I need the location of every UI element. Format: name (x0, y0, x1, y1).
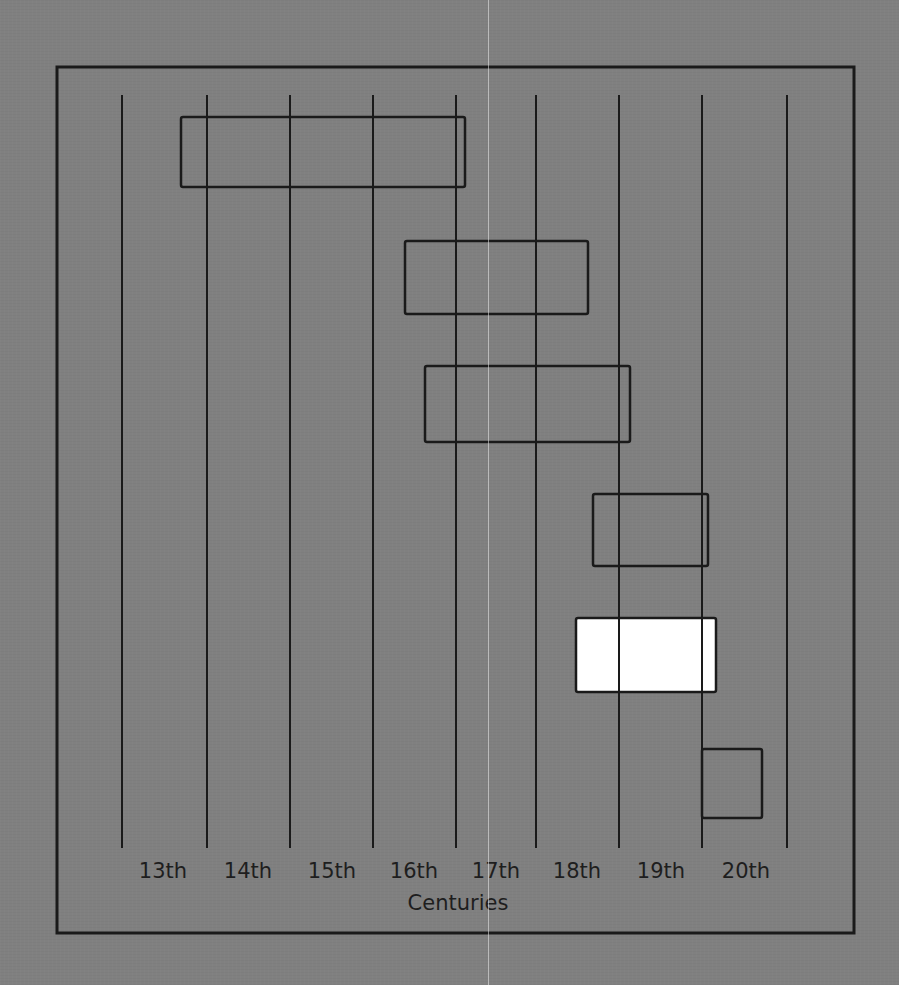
x-axis-title: Centuries (408, 891, 509, 915)
period-bars (181, 117, 762, 818)
tick-label-18th: 18th (553, 859, 601, 883)
x-axis-tick-labels: 13th 14th 15th 16th 17th 18th 19th 20th (139, 859, 770, 883)
period-bar-6 (702, 749, 762, 818)
tick-label-17th: 17th (472, 859, 520, 883)
gridlines (122, 95, 787, 848)
period-bar-4 (593, 494, 708, 566)
tick-label-13th: 13th (139, 859, 187, 883)
tick-label-20th: 20th (722, 859, 770, 883)
tick-label-15th: 15th (308, 859, 356, 883)
tick-label-14th: 14th (224, 859, 272, 883)
timeline-chart: 13th 14th 15th 16th 17th 18th 19th 20th … (0, 0, 899, 985)
period-bar-1 (181, 117, 465, 187)
period-bar-5-highlighted (576, 618, 716, 692)
tick-label-19th: 19th (637, 859, 685, 883)
period-bar-2 (405, 241, 588, 314)
tick-label-16th: 16th (390, 859, 438, 883)
